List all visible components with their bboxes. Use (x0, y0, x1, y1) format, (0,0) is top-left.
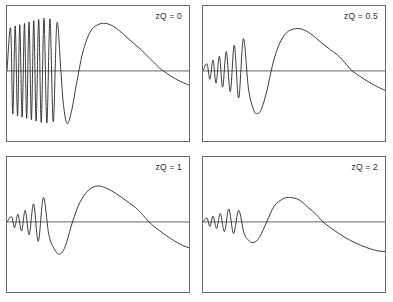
figure-canvas: zQ = 0 zQ = 0.5 zQ = 1 zQ = 2 (0, 0, 393, 302)
plot-panel: zQ = 0 (6, 5, 190, 142)
waveform-plot (7, 157, 189, 292)
plot-panel: zQ = 0.5 (202, 5, 386, 142)
waveform-plot (7, 6, 189, 141)
waveform-plot (203, 6, 385, 141)
plot-panel: zQ = 2 (202, 156, 386, 293)
panel-label: zQ = 0 (156, 12, 182, 21)
plot-panel: zQ = 1 (6, 156, 190, 293)
panel-label: zQ = 1 (156, 163, 182, 172)
signal-curve (7, 186, 189, 254)
signal-curve (203, 197, 385, 251)
panel-label: zQ = 0.5 (344, 12, 378, 21)
waveform-plot (203, 157, 385, 292)
panel-label: zQ = 2 (352, 163, 378, 172)
